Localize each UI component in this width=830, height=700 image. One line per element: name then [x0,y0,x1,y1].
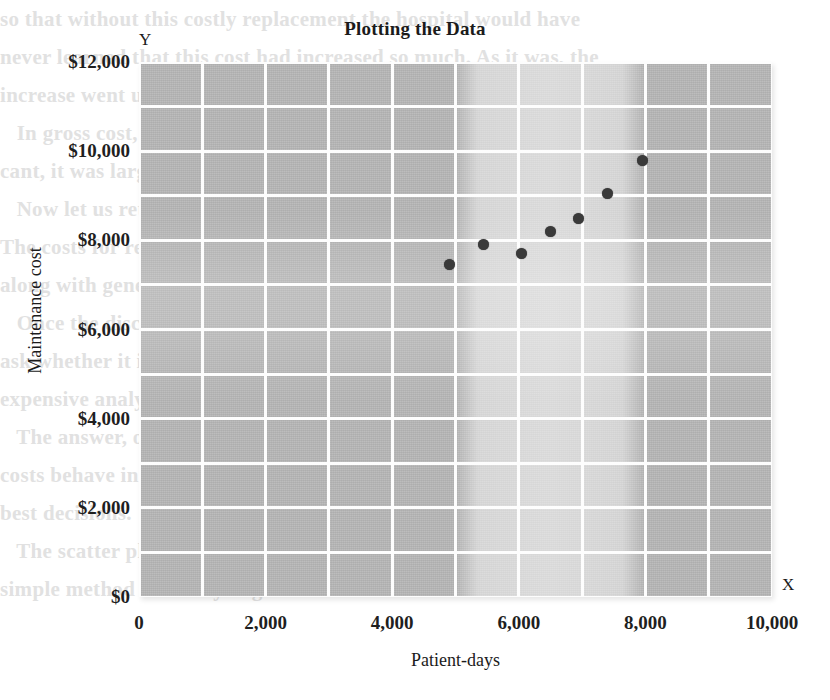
x-axis-title: Patient-days [139,650,772,671]
data-point [637,155,648,166]
gridline-horizontal [139,62,772,64]
gridline-horizontal [139,596,772,598]
data-point [573,213,584,224]
x-axis-ticklabels: 02,0004,0006,0008,00010,000 [139,612,772,642]
data-point [444,259,455,270]
gridline-horizontal [139,506,772,509]
x-tick-label: 0 [79,612,199,634]
scatter-chart: Plotting the Data Y X $0$2,000$4,000$6,0… [0,0,830,700]
gridline-horizontal [139,194,772,197]
gridline-horizontal [139,239,772,242]
data-point [545,226,556,237]
gridline-horizontal [139,328,772,331]
gridline-horizontal [139,373,772,376]
gridline-horizontal [139,551,772,554]
x-tick-label: 6,000 [459,612,579,634]
gridline-horizontal [139,283,772,286]
gridline-horizontal [139,417,772,420]
y-tick-label: $10,000 [25,140,130,162]
gridline-horizontal [139,150,772,153]
gridline-horizontal [139,105,772,108]
y-axis-marker: Y [139,30,151,50]
y-tick-label: $2,000 [25,497,130,519]
chart-title: Plotting the Data [0,18,830,40]
x-tick-label: 10,000 [712,612,830,634]
x-axis-marker: X [782,575,794,595]
gridline-horizontal [139,462,772,465]
x-tick-label: 4,000 [332,612,452,634]
y-axis-title: Maintenance cost [25,181,46,441]
x-tick-label: 8,000 [585,612,705,634]
y-tick-label: $0 [25,586,130,608]
plot-area [139,62,772,597]
y-tick-label: $12,000 [25,51,130,73]
x-tick-label: 2,000 [206,612,326,634]
data-point [602,188,613,199]
